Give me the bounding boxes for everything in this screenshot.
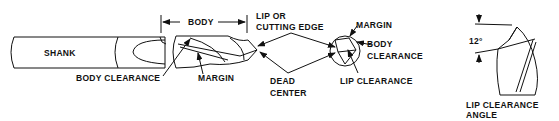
body-shape xyxy=(173,36,257,68)
dead-center-label-2: CENTER xyxy=(270,88,307,98)
end-body-clearance-label-2: CLEARANCE xyxy=(367,51,423,61)
lip-cutting-edge-label-2: CUTTING EDGE xyxy=(256,22,324,32)
angle-view-shape xyxy=(497,27,538,95)
lip-clearance-angle-label-2: ANGLE xyxy=(466,110,497,120)
lip-cutting-edge-label-1: LIP OR xyxy=(256,11,286,21)
margin-label: MARGIN xyxy=(198,73,234,83)
body-clearance-label: BODY CLEARANCE xyxy=(76,73,160,83)
angle-value-label: 12° xyxy=(469,36,483,46)
shank-label: SHANK xyxy=(44,48,76,58)
lip-clearance-angle-label-1: LIP CLEARANCE xyxy=(466,100,539,110)
body-label: BODY xyxy=(188,17,214,27)
dead-center-label-1: DEAD xyxy=(270,76,295,86)
end-view-shape xyxy=(330,36,360,66)
end-body-clearance-label-1: BODY xyxy=(367,39,393,49)
end-margin-label: MARGIN xyxy=(356,20,392,30)
shank-shape xyxy=(11,37,166,68)
lip-clearance-label: LIP CLEARANCE xyxy=(340,76,413,86)
